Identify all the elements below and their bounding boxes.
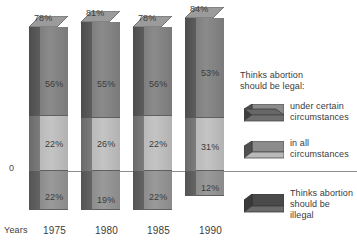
legend-title-line1: Thinks abortion (240, 70, 357, 81)
bar-total-label-1990: 84% (190, 4, 208, 14)
legend-item3-line1: Thinks abortion (290, 188, 353, 199)
legend-item1-line2: circumstances (290, 112, 349, 123)
legend-swatch-box-icon (244, 104, 284, 128)
bar-side-face (81, 118, 92, 171)
bar-segment-legal-certain[interactable] (92, 22, 120, 118)
zero-axis-label: 0 (9, 163, 14, 173)
bar-segment-illegal[interactable] (144, 171, 172, 210)
legend-item-under-certain-label: under certain circumstances (290, 101, 349, 123)
bar-total-label-1975: 78% (34, 13, 52, 23)
x-tick-label-1990: 1990 (199, 225, 222, 236)
bar-total-label-1985: 78% (138, 13, 156, 23)
legend-legal: Thinks abortion should be legal: under c… (240, 70, 357, 164)
bar-side-face (81, 171, 92, 210)
chart-canvas: 0 78% 56% 22% 22% (0, 0, 357, 249)
bar-value-legal-certain-1975: 56% (45, 79, 63, 89)
legend-item-in-all-label: in all circumstances (290, 138, 349, 160)
legend-title-line2: should be legal: (240, 81, 357, 92)
bar-side-face (81, 22, 92, 118)
legend-item-in-all[interactable]: in all circumstances (240, 138, 357, 164)
bar-value-legal-all-1975: 22% (45, 139, 63, 149)
bar-total-label-1980: 81% (86, 8, 104, 18)
bar-value-legal-all-1985: 22% (149, 139, 167, 149)
bar-side-face (29, 116, 40, 171)
bar-front-face (40, 27, 68, 116)
bar-segment-legal-certain[interactable] (144, 27, 172, 116)
legend-item2-line1: in all (290, 138, 349, 149)
legend-item2-line2: circumstances (290, 149, 349, 160)
legend-item3-line3: illegal (290, 210, 353, 221)
bar-side-face (185, 171, 196, 196)
bar-value-legal-certain-1980: 55% (97, 79, 115, 89)
legend-item3-line2: should be (290, 199, 353, 210)
bar-side-face (133, 27, 144, 116)
bar-front-face (144, 171, 172, 210)
bar-front-face (144, 27, 172, 116)
legend-item-illegal-label: Thinks abortion should be illegal (290, 188, 353, 221)
bar-side-face (185, 118, 196, 171)
bar-value-illegal-1980: 19% (97, 195, 115, 205)
bar-side-face (29, 27, 40, 116)
legend-item1-line1: under certain (290, 101, 349, 112)
x-tick-label-1975: 1975 (43, 225, 66, 236)
bar-value-legal-all-1990: 31% (201, 142, 219, 152)
x-axis-title: Years (4, 225, 28, 235)
legend-title: Thinks abortion should be legal: (240, 70, 357, 92)
x-tick-label-1985: 1985 (147, 225, 170, 236)
bar-value-legal-certain-1985: 56% (149, 79, 167, 89)
bar-value-legal-all-1980: 26% (97, 139, 115, 149)
bar-side-face (185, 18, 196, 118)
bar-front-face (92, 22, 120, 118)
bar-value-illegal-1990: 12% (201, 183, 219, 193)
legend-item-under-certain[interactable]: under certain circumstances (240, 101, 357, 127)
x-tick-label-1980: 1980 (95, 225, 118, 236)
bar-front-face (40, 171, 68, 210)
legend-swatch-box-icon (244, 194, 284, 220)
bar-value-illegal-1975: 22% (45, 192, 63, 202)
bar-side-face (29, 171, 40, 210)
bar-value-legal-certain-1990: 53% (201, 68, 219, 78)
bar-side-face (133, 116, 144, 171)
bar-segment-illegal[interactable] (40, 171, 68, 210)
bar-segment-legal-certain[interactable] (40, 27, 68, 116)
legend-swatch-box-icon (244, 141, 284, 165)
bar-side-face (133, 171, 144, 210)
bar-value-illegal-1985: 22% (149, 192, 167, 202)
